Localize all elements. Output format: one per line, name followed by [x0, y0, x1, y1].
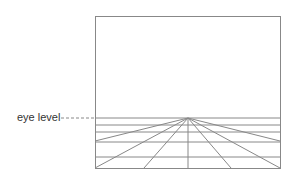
- eye-level-label: eye level: [17, 110, 60, 124]
- perspective-diagram: [0, 0, 297, 183]
